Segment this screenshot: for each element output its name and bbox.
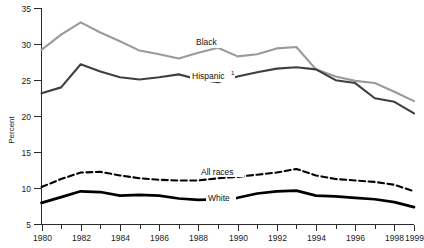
y-axis-tick-labels: 35 30 25 20 15 10 5 [22,4,32,230]
series-label-white-text: White [208,193,230,203]
y-axis: 35 30 25 20 15 10 5 Percent [7,4,42,230]
series-label-all-races-text: All races [201,167,234,177]
series-label-all-races: All races [199,166,244,177]
y-tick-label-5: 5 [26,220,31,230]
series-label-white: White [206,192,236,203]
y-tick-label-10: 10 [22,184,32,194]
series-label-hispanic: Hispanic 1 [190,70,235,82]
y-axis-ticks [34,9,42,225]
y-tick-label-15: 15 [22,148,32,158]
y-tick-label-35: 35 [22,4,32,14]
series-label-black-text: Black [196,37,218,47]
data-series-group [42,22,415,207]
series-annotations: Black Hispanic 1 All races White [190,36,244,203]
y-axis-title: Percent [7,115,16,143]
series-line-black [42,22,415,101]
dropout-rate-line-chart: 35 30 25 20 15 10 5 Percent 198019821984… [0,0,424,248]
series-label-hispanic-text: Hispanic [192,71,225,81]
y-tick-label-25: 25 [22,76,32,86]
cropped-caption-row [0,240,424,248]
series-label-black: Black [194,36,226,48]
y-tick-label-30: 30 [22,40,32,50]
chart-plot-area: 35 30 25 20 15 10 5 Percent 198019821984… [0,0,424,248]
y-tick-label-20: 20 [22,112,32,122]
x-axis-ticks [43,225,415,231]
